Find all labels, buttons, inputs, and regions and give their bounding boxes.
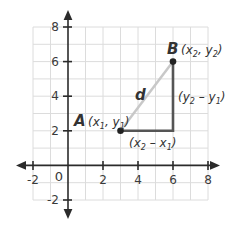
y-axis-down-arrow-icon [64, 209, 73, 219]
y-tick-label: 8 [51, 20, 59, 34]
x-axis-left-arrow-icon [16, 161, 26, 170]
svg-text:(x2, y2): (x2, y2) [181, 43, 222, 59]
horizontal-leg-label: (x2 – x1) [129, 136, 176, 152]
point-b-label: B (x2, y2) [167, 40, 222, 59]
y-tick-label: 4 [51, 89, 59, 103]
x-axis-right-arrow-icon [210, 161, 220, 170]
distance-label: d [135, 86, 146, 104]
origin-label: 0 [55, 169, 63, 184]
x-tick-label: 8 [204, 173, 212, 187]
vertical-leg-label: (y2 – y1) [178, 90, 225, 106]
coordinate-plane: -2 2 4 6 8 8 6 4 2 -2 0 d A (x1, y1) B (… [0, 0, 231, 228]
y-tick-label: 2 [51, 124, 59, 138]
x-tick-label: 2 [99, 173, 107, 187]
x-tick-label: -2 [27, 173, 39, 187]
y-axis-up-arrow-icon [64, 10, 73, 20]
y-tick-label: -2 [47, 193, 59, 207]
y-tick-label: 6 [51, 55, 59, 69]
x-tick-label: 4 [134, 173, 142, 187]
svg-text:B: B [167, 40, 178, 58]
svg-text:A: A [73, 112, 86, 130]
x-tick-label: 6 [169, 173, 177, 187]
point-b-marker [170, 58, 177, 65]
svg-text:(x1, y1): (x1, y1) [88, 115, 129, 131]
